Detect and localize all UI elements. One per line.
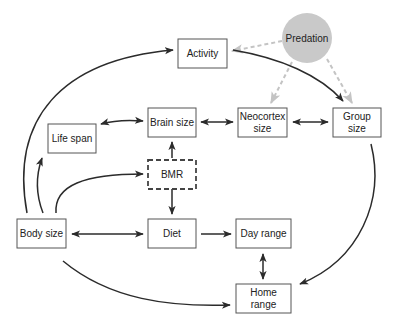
node-home-range: Home range [236,284,291,313]
day-range-label: Day range [240,228,287,239]
edge-body-bmr [56,174,143,213]
body-size-label: Body size [20,228,64,239]
node-day-range: Day range [236,219,291,248]
node-group-size: Group size [333,108,381,137]
node-bmr: BMR [148,160,196,189]
diagram-canvas: Predation Activity Life span Brain size … [0,0,395,327]
edges [24,50,375,305]
neocortex-label-line1: Neocortex [240,111,286,122]
home-range-label-line2: range [251,299,277,310]
life-span-label: Life span [52,133,93,144]
node-neocortex-size: Neocortex size [238,108,287,137]
edge-predation-activity [232,41,282,51]
home-range-label-line1: Home [250,287,277,298]
node-life-span: Life span [48,124,96,153]
node-activity: Activity [178,39,227,68]
neocortex-label-line2: size [254,123,272,134]
predation-label: Predation [286,33,329,44]
edge-activity-group [233,50,343,101]
node-diet: Diet [148,219,196,248]
brain-size-label: Brain size [150,117,194,128]
edge-body-homerange [63,261,230,305]
bmr-label: BMR [161,169,183,180]
group-size-label-line1: Group [343,111,371,122]
activity-label: Activity [187,48,219,59]
group-size-label-line2: size [348,123,366,134]
edge-group-homerange [300,144,375,284]
node-brain-size: Brain size [148,108,196,137]
edge-lifespan-brain [101,120,143,124]
edge-predation-neocortex [271,62,292,103]
edge-body-lifespan [38,158,43,213]
diet-label: Diet [163,228,181,239]
node-predation: Predation [282,13,332,63]
node-body-size: Body size [17,219,66,248]
